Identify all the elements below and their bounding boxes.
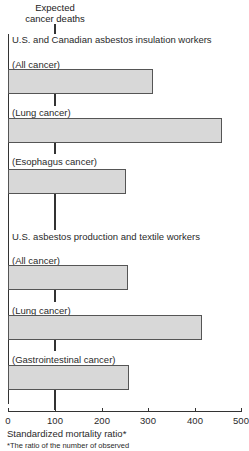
bar-production-gastrointestinal-cancer — [8, 365, 129, 390]
bar-insulation-esophagus-cancer — [8, 169, 126, 194]
x-tick — [55, 408, 56, 411]
x-tick-label: 500 — [226, 415, 249, 426]
reference-line-segment — [54, 390, 56, 410]
reference-line-label: Expected cancer deaths — [5, 2, 105, 24]
reference-line-segment — [54, 194, 56, 230]
x-axis-label: Standardized mortality ratio* — [7, 428, 126, 439]
bar-insulation-lung-cancer — [8, 118, 222, 143]
reference-label-line2: cancer deaths — [5, 13, 105, 24]
reference-line-segment — [54, 340, 56, 351]
x-tick — [8, 408, 9, 411]
x-tick-label: 200 — [87, 415, 117, 426]
x-tick — [195, 408, 196, 411]
x-axis-line — [8, 411, 242, 412]
reference-label-line1: Expected — [5, 2, 105, 13]
x-tick-label: 300 — [133, 415, 163, 426]
x-tick-label: 0 — [0, 415, 23, 426]
reference-line-segment — [54, 94, 56, 106]
group-title-production-workers: U.S. asbestos production and textile wor… — [12, 231, 200, 242]
group-title-insulation-workers: U.S. and Canadian asbestos insulation wo… — [12, 34, 212, 45]
category-label: (Esophagus cancer) — [12, 156, 97, 167]
reference-line-segment — [54, 24, 56, 34]
reference-line-segment — [54, 290, 56, 302]
bar-production-all-cancer — [8, 265, 128, 290]
footnote: *The ratio of the number of observed — [7, 441, 129, 450]
bar-production-lung-cancer — [8, 315, 202, 340]
x-tick — [148, 408, 149, 411]
x-tick-label: 100 — [40, 415, 70, 426]
x-tick — [241, 408, 242, 411]
category-label: (Lung cancer) — [12, 107, 71, 118]
x-tick-label: 400 — [180, 415, 210, 426]
reference-line-segment — [54, 143, 56, 154]
category-label: (Gastrointestinal cancer) — [12, 354, 115, 365]
bar-insulation-all-cancer — [8, 69, 153, 94]
x-tick — [102, 408, 103, 411]
